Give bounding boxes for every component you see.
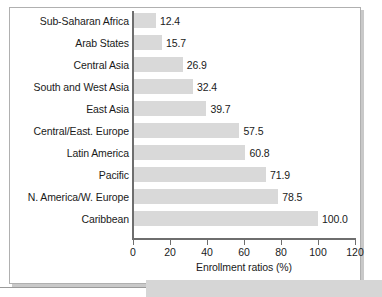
x-axis-tick-label: 60 [229, 246, 259, 259]
x-axis-tick [133, 240, 134, 245]
bar-track: 12.4 [133, 13, 355, 28]
bar [133, 167, 266, 182]
bar [133, 57, 183, 72]
bar-value-label: 60.8 [249, 146, 269, 160]
bar-track: 100.0 [133, 211, 355, 226]
bar-track: 60.8 [133, 145, 355, 160]
chart-row: Central/East. Europe57.5 [10, 121, 360, 143]
chart-row: South and West Asia32.4 [10, 77, 360, 99]
bar-track: 57.5 [133, 123, 355, 138]
bar-value-label: 32.4 [197, 80, 217, 94]
y-axis-line [132, 11, 134, 240]
chart-row: N. America/W. Europe78.5 [10, 187, 360, 209]
x-axis-title: Enrollment ratios (%) [132, 261, 356, 273]
bar [133, 145, 245, 160]
bar [133, 189, 278, 204]
category-label: Sub-Saharan Africa [10, 14, 129, 28]
bar-value-label: 71.9 [270, 168, 290, 182]
category-label: Central/East. Europe [10, 124, 129, 138]
chart-row: Arab States15.7 [10, 33, 360, 55]
x-axis-tick [281, 240, 282, 245]
x-axis-tick [207, 240, 208, 245]
chart-row: Pacific71.9 [10, 165, 360, 187]
x-axis-tick-label: 100 [303, 246, 333, 259]
bar-track: 39.7 [133, 101, 355, 116]
chart-row: Caribbean100.0 [10, 209, 360, 231]
bar-value-label: 26.9 [187, 58, 207, 72]
category-label: N. America/W. Europe [10, 190, 129, 204]
category-label: Pacific [10, 168, 129, 182]
x-axis-tick [244, 240, 245, 245]
bar-track: 26.9 [133, 57, 355, 72]
bar-value-label: 15.7 [166, 36, 186, 50]
category-label: Arab States [10, 36, 129, 50]
x-axis-tick [170, 240, 171, 245]
chart-row: East Asia39.7 [10, 99, 360, 121]
bar [133, 123, 239, 138]
x-axis-tick-label: 0 [118, 246, 148, 259]
x-axis-tick [355, 240, 356, 245]
bar [133, 79, 193, 94]
x-axis-tick-label: 40 [192, 246, 222, 259]
category-label: Caribbean [10, 212, 129, 226]
x-axis-tick-label: 20 [155, 246, 185, 259]
bar-track: 32.4 [133, 79, 355, 94]
bar-value-label: 100.0 [322, 212, 348, 226]
chart-row: Central Asia26.9 [10, 55, 360, 77]
bar [133, 13, 156, 28]
bar-chart: Sub-Saharan Africa12.4Arab States15.7Cen… [10, 8, 360, 283]
x-axis-tick-label: 120 [340, 246, 370, 259]
x-axis-tick-label: 80 [266, 246, 296, 259]
bar-track: 78.5 [133, 189, 355, 204]
bar-value-label: 12.4 [160, 14, 180, 28]
category-label: Central Asia [10, 58, 129, 72]
bar [133, 35, 162, 50]
bar-value-label: 39.7 [210, 102, 230, 116]
category-label: Latin America [10, 146, 129, 160]
chart-row: Latin America60.8 [10, 143, 360, 165]
page-rule-line [0, 287, 146, 288]
bar-track: 71.9 [133, 167, 355, 182]
chart-row: Sub-Saharan Africa12.4 [10, 11, 360, 33]
category-label: South and West Asia [10, 80, 129, 94]
bar-value-label: 57.5 [243, 124, 263, 138]
x-axis-tick [318, 240, 319, 245]
category-label: East Asia [10, 102, 129, 116]
figure-frame: Sub-Saharan Africa12.4Arab States15.7Cen… [9, 7, 361, 284]
bar-value-label: 78.5 [282, 190, 302, 204]
page-gray-band [146, 280, 382, 297]
bar [133, 101, 206, 116]
bar-track: 15.7 [133, 35, 355, 50]
bar [133, 211, 318, 226]
chart-rows: Sub-Saharan Africa12.4Arab States15.7Cen… [10, 11, 360, 231]
